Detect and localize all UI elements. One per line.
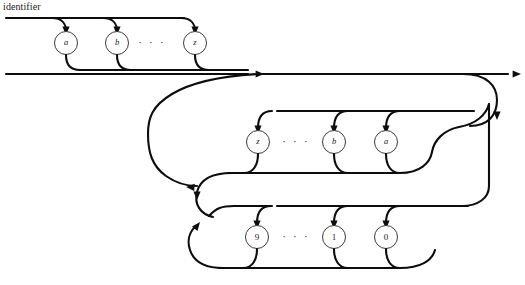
node-label-a-row2: a bbox=[384, 136, 388, 146]
node-label-a-row1: a bbox=[64, 37, 68, 47]
return-from-b-row2 bbox=[334, 154, 348, 173]
node-label-1: 1 bbox=[332, 232, 337, 242]
return-from-b-row1 bbox=[117, 55, 131, 70]
return-from-z-row1 bbox=[195, 55, 209, 70]
arrowhead-main-end bbox=[513, 70, 521, 77]
big-left-loopback bbox=[148, 74, 258, 186]
node-label-9: 9 bbox=[255, 232, 260, 242]
ellipsis-row3: · · · bbox=[282, 230, 310, 242]
row3-top-right-bend bbox=[462, 104, 489, 206]
return-from-1-row3 bbox=[334, 249, 348, 268]
return-from-9-row3 bbox=[243, 249, 257, 268]
railroad-svg-canvas: a b · · · z z bbox=[0, 0, 525, 285]
branch-down-to-1 bbox=[334, 206, 348, 223]
branch-down-to-0 bbox=[386, 206, 400, 223]
node-label-z-row2: z bbox=[255, 136, 260, 146]
return-from-a-row2 bbox=[386, 152, 432, 173]
row3-bottom-left-return bbox=[189, 226, 223, 268]
return-from-z-row2 bbox=[244, 154, 258, 173]
return-from-a-row1 bbox=[66, 55, 248, 70]
arrowhead-right-loop-down bbox=[493, 112, 500, 120]
branch-down-to-b-row2 bbox=[334, 111, 348, 128]
node-label-b-row1: b bbox=[115, 37, 119, 47]
branch-down-to-z-row2 bbox=[258, 111, 272, 128]
ellipsis-row2: · · · bbox=[282, 135, 310, 147]
railroad-diagram: identifier a b · · · z bbox=[0, 0, 525, 285]
return-from-0-row3 bbox=[386, 249, 435, 268]
branch-down-to-9 bbox=[257, 206, 271, 223]
node-label-z-row1: z bbox=[192, 37, 197, 47]
ellipsis-row1: · · · bbox=[138, 36, 166, 48]
branch-down-to-a-row2 bbox=[386, 111, 400, 128]
arrowhead-row2-left-bend bbox=[193, 192, 200, 200]
node-label-b-row2: b bbox=[332, 136, 336, 146]
node-label-0: 0 bbox=[384, 232, 389, 242]
